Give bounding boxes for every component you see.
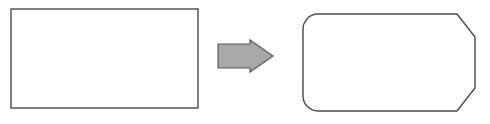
shape-transformation-diagram	[0, 0, 490, 124]
diagram-canvas	[0, 0, 490, 124]
source-rectangle-shape[interactable]	[11, 9, 198, 108]
target-rounded-chamfered-shape[interactable]	[303, 14, 475, 111]
transformation-arrow-icon[interactable]	[218, 40, 273, 72]
